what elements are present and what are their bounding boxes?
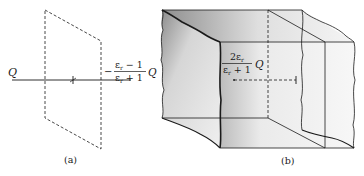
image-charge-diagram: Q − εr − 1 εr + 1 Q (a) — [0, 0, 364, 176]
minus-sign: − — [104, 66, 112, 77]
fraction-numerator: εr − 1 — [115, 59, 143, 71]
fraction-denominator: εr + 1 — [115, 72, 143, 84]
fraction-q: Q — [148, 66, 157, 79]
caption-b: (b) — [281, 155, 295, 166]
panel-a: Q − εr − 1 εr + 1 Q (a) — [8, 10, 157, 165]
fraction-q: Q — [255, 58, 264, 71]
caption-a: (a) — [64, 154, 77, 165]
charge-label: Q — [8, 66, 17, 79]
fraction-denominator: εr + 1 — [223, 64, 251, 76]
panel-b: 2εr εr + 1 Q (b) — [161, 10, 355, 166]
